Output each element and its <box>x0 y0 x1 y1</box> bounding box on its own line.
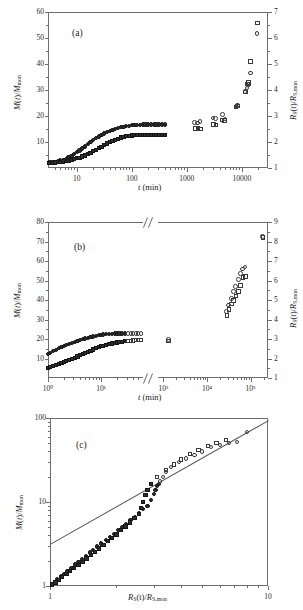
y-tick-label-right-b: 2 <box>274 354 284 363</box>
data-point-square <box>137 512 141 516</box>
y-minor-tick-c <box>48 422 50 423</box>
x-minor-tick-a <box>148 168 149 170</box>
y-minor-tick-a <box>46 155 48 156</box>
x-tick-b <box>48 378 49 382</box>
x-minor-tick-a <box>170 168 171 170</box>
data-point-square <box>119 528 123 532</box>
y-minor-tick-right-b <box>268 251 270 252</box>
x-minor-tick-b <box>205 378 206 380</box>
data-point-circle <box>152 492 156 496</box>
x-minor-tick-a <box>236 168 237 170</box>
y-tick-label-left-b: 10 <box>22 354 44 363</box>
y-minor-tick-c <box>48 477 50 478</box>
y-tick-label-left-a: 10 <box>22 137 44 146</box>
data-point-square <box>106 539 110 543</box>
x-minor-tick-b <box>246 378 247 380</box>
y-tick-label-right-b: 6 <box>274 276 284 285</box>
y-tick-left-b <box>45 339 49 340</box>
data-point-square <box>234 294 239 299</box>
x-tick-a <box>242 168 243 172</box>
y-tick-label-left-b: 70 <box>22 237 44 246</box>
x-minor-tick-b <box>244 378 245 380</box>
x-minor-tick-b <box>80 378 81 380</box>
x-minor-tick-b <box>264 378 265 380</box>
y-tick-label-right-b: 1 <box>274 373 284 382</box>
data-point-square <box>214 441 218 445</box>
data-point-square <box>243 90 248 95</box>
y-tick-right-b <box>268 300 272 301</box>
y-tick-left-a <box>45 38 49 39</box>
y-minor-tick-c <box>48 527 50 528</box>
y-minor-tick-b <box>46 271 48 272</box>
x-minor-tick-b <box>176 378 177 380</box>
y-tick-label-right-a: 5 <box>274 59 284 68</box>
data-point-square <box>145 488 149 492</box>
x-minor-tick-a <box>55 168 56 170</box>
y-tick-label-left-b: 40 <box>22 295 44 304</box>
data-point-square <box>132 516 136 520</box>
data-point-square <box>246 80 251 85</box>
y-minor-tick-right-a <box>268 103 270 104</box>
y-tick-label-c: 10 <box>20 497 46 506</box>
x-minor-tick-c <box>234 586 235 588</box>
y-tick-right-b <box>268 359 272 360</box>
data-point-square <box>231 298 236 303</box>
x-minor-tick-b <box>99 378 100 380</box>
y-tick-right-a <box>268 64 272 65</box>
y-minor-tick-b <box>46 290 48 291</box>
x-minor-tick-b <box>249 378 250 380</box>
x-minor-tick-b <box>85 378 86 380</box>
y-tick-label-right-a: 1 <box>274 163 284 172</box>
y-tick-label-left-b: 80 <box>22 217 44 226</box>
data-point-square <box>227 307 232 312</box>
x-minor-tick-c <box>202 586 203 588</box>
x-minor-tick-a <box>74 168 75 170</box>
y-minor-tick-right-b <box>268 271 270 272</box>
x-tick-a <box>132 168 133 172</box>
y-minor-tick-a <box>46 77 48 78</box>
x-minor-tick-a <box>103 168 104 170</box>
y-minor-tick-c <box>48 431 50 432</box>
x-minor-tick-b <box>133 378 134 380</box>
y-minor-tick-right-a <box>268 155 270 156</box>
x-minor-tick-b <box>184 378 185 380</box>
y-tick-c <box>46 502 50 503</box>
x-minor-tick-a <box>225 168 226 170</box>
data-point-square <box>243 274 248 279</box>
x-minor-tick-a <box>165 168 166 170</box>
y-axis-right-label-b: RS(t)/RS,mon <box>288 289 298 328</box>
data-point-square <box>248 59 253 64</box>
y-tick-label-left-b: 60 <box>22 256 44 265</box>
y-tick-right-a <box>268 90 272 91</box>
y-minor-tick-b <box>46 349 48 350</box>
x-minor-tick-b <box>220 378 221 380</box>
y-tick-right-b <box>268 281 272 282</box>
y-tick-left-a <box>45 12 49 13</box>
data-point-square <box>163 133 167 137</box>
x-tick-label-b: 10⁵ <box>231 384 271 393</box>
data-point-square <box>214 123 219 128</box>
y-tick-left-a <box>45 116 49 117</box>
data-point-square <box>139 338 143 342</box>
x-minor-tick-b <box>194 378 195 380</box>
panel-b: (b) M(t)/Mmon RS(t)/RS,mon t (min) 10203… <box>0 200 303 400</box>
data-point-square <box>166 339 171 344</box>
x-minor-tick-a <box>220 168 221 170</box>
y-tick-label-right-b: 8 <box>274 237 284 246</box>
data-point-square <box>196 448 200 452</box>
data-point-square <box>225 313 230 318</box>
data-point-square <box>235 104 240 109</box>
y-minor-tick-right-b <box>268 290 270 291</box>
panel-c: (c) M(t)/Mmon RS(t)/RS,mon 110100110 <box>0 400 303 610</box>
x-minor-tick-c <box>154 586 155 588</box>
x-tick-b <box>101 378 102 382</box>
x-axis-label-a: t (min) <box>138 182 161 192</box>
x-axis-label-c: RS(t)/RS,mon <box>128 592 167 602</box>
y-tick-right-b <box>268 378 272 379</box>
x-minor-tick-b <box>96 378 97 380</box>
y-tick-label-c: 1 <box>20 581 46 590</box>
y-tick-label-left-a: 60 <box>22 7 44 16</box>
data-point-square <box>155 475 159 479</box>
y-minor-tick-c <box>48 561 50 562</box>
x-minor-tick-a <box>71 168 72 170</box>
